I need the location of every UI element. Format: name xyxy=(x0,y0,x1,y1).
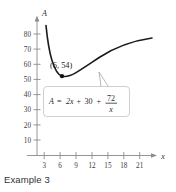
x-tick-label: 3 xyxy=(42,162,46,170)
y-tick-label: 80 xyxy=(24,31,32,39)
x-tick-label: 9 xyxy=(74,162,78,170)
y-tick-label: 60 xyxy=(24,61,32,69)
equation-term2: 30 xyxy=(85,97,93,106)
y-tick-label: 50 xyxy=(24,76,32,84)
x-tick-label: 21 xyxy=(136,162,144,170)
figure-caption: Example 3 xyxy=(4,174,50,185)
x-tick-labels-group: 3 6 9 12 15 18 21 xyxy=(42,162,143,170)
x-tick-label: 18 xyxy=(120,162,128,170)
plot-svg: 80 70 60 50 40 30 20 10 3 6 9 12 15 18 xyxy=(0,0,176,192)
y-tick-label: 20 xyxy=(24,122,32,130)
leader-line-group xyxy=(99,72,108,86)
x-axis-label: x xyxy=(160,152,165,161)
y-tick-label: 10 xyxy=(24,137,32,145)
y-tick-labels-group: 80 70 60 50 40 30 20 10 xyxy=(24,31,32,145)
figure-container: 80 70 60 50 40 30 20 10 3 6 9 12 15 18 xyxy=(0,0,176,192)
y-tick-label: 30 xyxy=(24,106,32,114)
equation-plus2: + xyxy=(97,97,102,106)
equation-equals: = xyxy=(57,97,62,106)
y-axis-arrow-icon xyxy=(35,16,40,22)
x-axis-arrow-icon xyxy=(151,153,157,158)
equation-plus1: + xyxy=(77,97,82,106)
equation-lhs: A xyxy=(48,97,54,106)
x-tick-label: 6 xyxy=(58,162,62,170)
point-label: (6, 54) xyxy=(50,61,73,70)
minimum-point-marker xyxy=(60,74,64,78)
equation-fraction-numerator: 72 xyxy=(107,94,115,103)
equation-callout-box: A = 2x + 30 + 72 x xyxy=(44,87,130,117)
y-tick-label: 40 xyxy=(24,91,32,99)
y-axis-label: A xyxy=(41,9,47,18)
equation-fraction-denominator: x xyxy=(108,105,113,114)
equation-term1: 2x xyxy=(66,97,74,106)
x-tick-label: 12 xyxy=(88,162,96,170)
y-tick-label: 70 xyxy=(24,46,32,54)
x-tick-label: 15 xyxy=(104,162,112,170)
